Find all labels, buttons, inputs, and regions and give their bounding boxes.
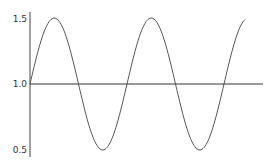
- y-tick-0-5: 0.5: [1, 145, 27, 155]
- y-tick-1-5: 1.5: [1, 14, 27, 24]
- sine-plot: [0, 0, 271, 162]
- y-tick-1-0: 1.0: [1, 79, 27, 89]
